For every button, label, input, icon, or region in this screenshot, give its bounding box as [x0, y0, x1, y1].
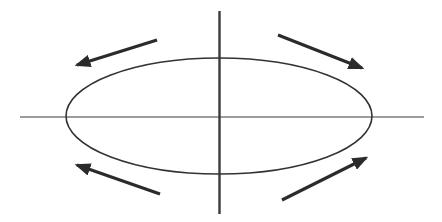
rotation-diagram [0, 0, 442, 222]
arrow-bottom-left-icon [77, 165, 160, 194]
arrow-top-right-icon [278, 35, 362, 68]
arrow-top-left-icon [77, 40, 157, 65]
arrow-bottom-right-icon [282, 158, 366, 200]
